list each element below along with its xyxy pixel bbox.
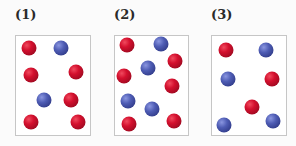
red-particle bbox=[24, 115, 39, 130]
red-particle bbox=[69, 65, 84, 80]
red-particle bbox=[64, 93, 79, 108]
blue-particle bbox=[145, 102, 160, 117]
blue-particle bbox=[54, 41, 69, 56]
blue-particle bbox=[266, 114, 281, 129]
red-particle bbox=[165, 79, 180, 94]
blue-particle bbox=[141, 61, 156, 76]
red-particle bbox=[245, 100, 260, 115]
red-particle bbox=[120, 38, 135, 53]
red-particle bbox=[22, 41, 37, 56]
blue-particle bbox=[259, 43, 274, 58]
red-particle bbox=[71, 115, 86, 130]
panel-label-1: (1) bbox=[15, 7, 36, 22]
panel-label-2: (2) bbox=[114, 7, 135, 22]
panel-label-3: (3) bbox=[211, 7, 232, 22]
blue-particle bbox=[217, 118, 232, 133]
red-particle bbox=[122, 117, 137, 132]
blue-particle bbox=[154, 37, 169, 52]
red-particle bbox=[265, 72, 280, 87]
blue-particle bbox=[37, 93, 52, 108]
blue-particle bbox=[221, 72, 236, 87]
red-particle bbox=[219, 43, 234, 58]
red-particle bbox=[24, 68, 39, 83]
blue-particle bbox=[121, 94, 136, 109]
red-particle bbox=[167, 114, 182, 129]
red-particle bbox=[117, 69, 132, 84]
red-particle bbox=[168, 54, 183, 69]
